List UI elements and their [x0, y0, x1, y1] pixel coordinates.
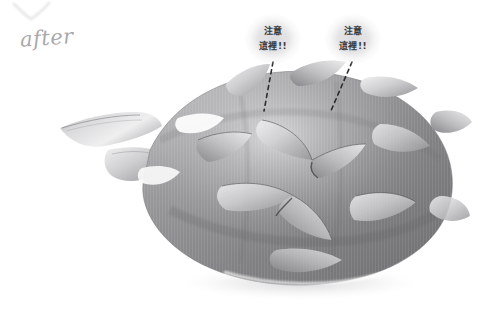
callout-1-line-1: 注意	[264, 25, 283, 38]
right-bract	[430, 110, 472, 132]
check-mark	[14, 3, 49, 19]
callout-1-line-2: 這裡!!	[259, 40, 287, 53]
callout-2-line-2: 這裡!!	[339, 40, 367, 53]
after-handwriting-label: after	[19, 24, 74, 52]
callout-2-line-1: 注意	[344, 25, 363, 38]
callout-bubble-2: 注意 這裡!!	[325, 13, 381, 65]
canvas-root: after 注意 這裡!! 注意 這裡!!	[0, 0, 478, 313]
crown-bract-c	[360, 76, 418, 96]
callout-bubble-1: 注意 這裡!!	[245, 13, 301, 65]
